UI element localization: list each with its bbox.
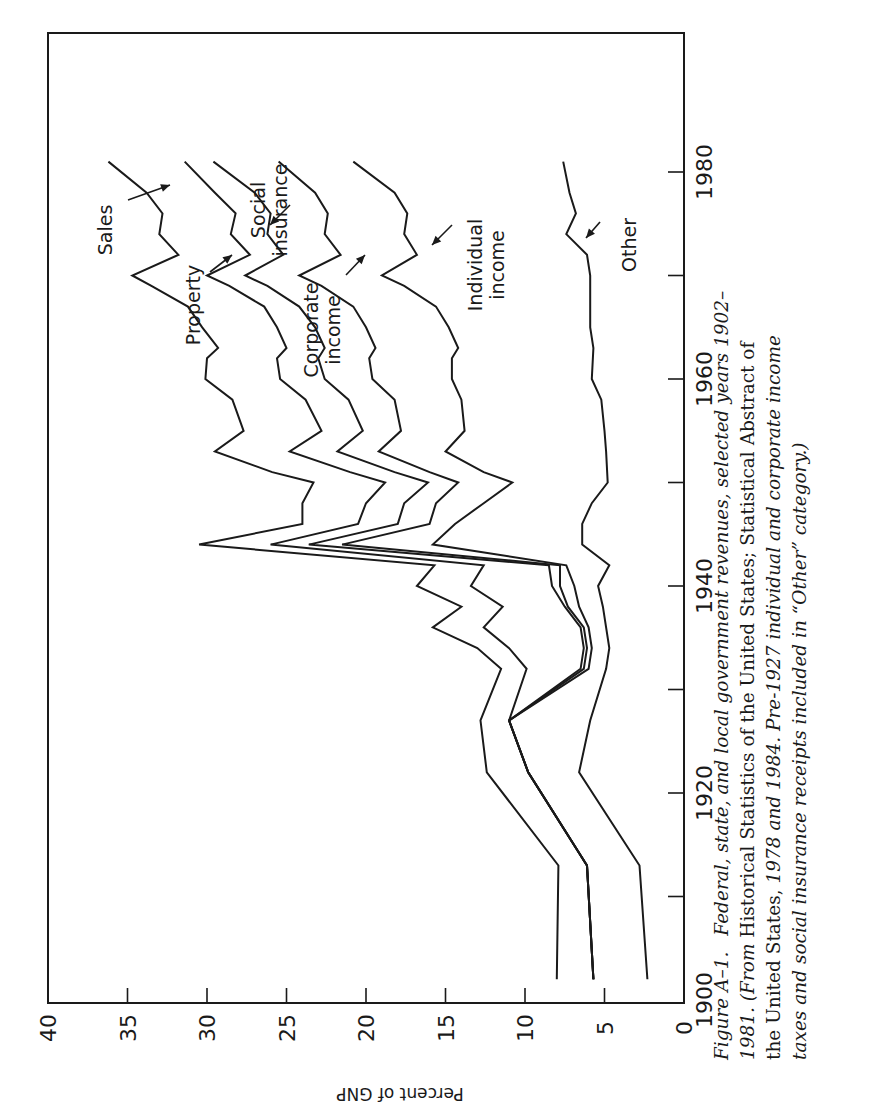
percent-tick-label: 5	[593, 1021, 618, 1035]
y-axis-title: Percent of GNP	[336, 1084, 463, 1104]
series-label-other: Other	[586, 218, 640, 272]
figure-caption: Figure A–1. Federal, state, and local go…	[711, 291, 810, 1061]
series-labels: SalesPropertySocialinsuranceCorporateinc…	[94, 164, 640, 378]
plot-frame	[48, 33, 684, 1003]
svg-text:Sales: Sales	[94, 205, 116, 256]
series-label-social-insurance: Socialinsurance	[247, 164, 291, 257]
caption-title: Federal, state, and local government rev…	[711, 291, 732, 937]
svg-text:1981. (From Historical: 1981. (From Historical Statistics of the…	[737, 341, 758, 1060]
percent-tick-label: 40	[36, 1014, 61, 1042]
year-tick-label: 1980	[692, 144, 717, 200]
caption-note-cont: taxes and social insurance receipts incl…	[789, 442, 810, 1060]
percent-tick-label: 15	[434, 1014, 459, 1042]
line-property	[185, 162, 594, 980]
caption-figure-number: Figure A–1.	[711, 952, 732, 1061]
svg-text:Figure A–1. Federal, sta: Figure A–1. Federal, state, and local go…	[711, 291, 732, 1061]
svg-text:insurance: insurance	[269, 164, 291, 257]
svg-text:Social: Social	[247, 182, 269, 238]
series-label-property: Property	[182, 255, 232, 345]
svg-text:the United States, 1978: the United States, 1978 and 1984. Pre-19…	[763, 335, 784, 1060]
svg-text:income: income	[486, 230, 508, 300]
caption-source-prefix: 1981. (From	[737, 938, 758, 1060]
percent-tick-label: 20	[354, 1014, 379, 1042]
svg-text:Other: Other	[618, 218, 640, 272]
caption-source-title: Historical Statistics of the United Stat…	[737, 341, 758, 938]
percent-tick-label: 35	[116, 1014, 141, 1042]
percent-tick-label: 30	[195, 1014, 220, 1042]
line-corporate-income	[279, 162, 594, 980]
caption-note: 1978 and 1984. Pre-1927 individual and c…	[763, 335, 784, 883]
arrowhead-icon	[160, 184, 170, 192]
svg-text:Corporate: Corporate	[300, 283, 322, 378]
svg-text:Property: Property	[182, 265, 204, 345]
series-label-sales: Sales	[94, 184, 170, 255]
line-other	[563, 162, 647, 980]
percent-tick-label: 10	[513, 1014, 538, 1042]
svg-text:income: income	[322, 295, 344, 365]
percent-axis: 0510152025303540	[36, 988, 697, 1042]
year-axis: 19001920194019601980	[668, 144, 717, 1028]
arrowhead-icon	[222, 255, 232, 264]
percent-tick-label: 25	[275, 1014, 300, 1042]
svg-text:Individual: Individual	[464, 219, 486, 312]
plot-area-border	[48, 33, 684, 1003]
series-label-corporate-income: Corporateincome	[300, 255, 365, 377]
caption-source-title-cont: the United States,	[763, 884, 784, 1060]
revenue-chart: 0510152025303540 19001920194019601980 Sa…	[0, 0, 896, 1108]
series-label-individual-income: Individualincome	[432, 219, 508, 312]
line-social-insurance	[213, 162, 593, 980]
